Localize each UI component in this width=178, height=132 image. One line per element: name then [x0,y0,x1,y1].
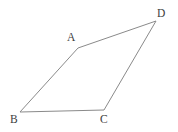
edge-c-b [20,110,104,112]
geometry-figure-canvas: A B C D [0,0,178,132]
edge-d-c [104,21,156,110]
edge-b-a [20,48,78,112]
vertex-label-d: D [157,8,165,20]
vertex-label-b: B [10,114,18,126]
edge-a-d [78,21,156,48]
quadrilateral-figure [0,0,178,132]
vertex-label-a: A [67,32,75,44]
vertex-label-c: C [100,114,108,126]
